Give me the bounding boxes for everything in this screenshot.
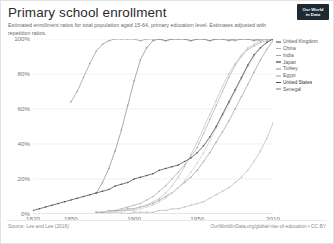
legend-item-united-states[interactable]: United States — [276, 80, 334, 86]
series-point — [121, 39, 123, 40]
series-point — [190, 154, 192, 156]
series-point — [234, 39, 236, 40]
series-point — [127, 208, 128, 210]
legend-item-india[interactable]: India — [276, 53, 334, 59]
series-point — [241, 96, 243, 98]
series-line-senegal[interactable] — [121, 123, 273, 214]
series-point — [241, 54, 243, 56]
series-point — [171, 166, 173, 168]
series-point — [64, 201, 66, 203]
series-point — [203, 152, 205, 154]
legend-label: Senegal — [283, 87, 301, 92]
y-tick-label: 100% — [14, 35, 30, 42]
series-point — [83, 196, 85, 198]
legend-item-united-kingdom[interactable]: United Kingdom — [276, 39, 334, 45]
series-point — [209, 114, 211, 116]
series-point — [51, 205, 53, 207]
series-point — [196, 152, 198, 154]
series-point — [209, 198, 211, 200]
series-point — [196, 170, 198, 172]
series-point — [215, 142, 217, 144]
legend-item-japan[interactable]: Japan — [276, 59, 334, 65]
series-point — [222, 39, 224, 40]
series-point — [102, 212, 104, 214]
series-point — [159, 210, 161, 212]
series-point — [114, 39, 116, 40]
y-tick-label: 20% — [18, 175, 30, 182]
legend-swatch-icon — [276, 68, 281, 70]
series-point — [247, 170, 249, 172]
legend-swatch-icon — [276, 75, 281, 77]
series-point — [76, 198, 78, 200]
series-point — [209, 152, 211, 154]
series-line-united-kingdom[interactable] — [71, 39, 273, 102]
legend-item-china[interactable]: China — [276, 46, 334, 52]
series-point — [165, 192, 167, 194]
series-point — [146, 205, 148, 207]
series-point — [266, 49, 268, 51]
series-point — [146, 206, 148, 208]
series-point — [140, 206, 142, 208]
series-point — [260, 150, 262, 152]
y-tick-label: 40% — [18, 140, 30, 147]
series-point — [159, 191, 161, 193]
legend-label: Turkey — [283, 66, 298, 71]
series-point — [260, 40, 262, 42]
series-point — [76, 91, 78, 93]
attribution-note[interactable]: OurWorldInData.org/global-rise-of-educat… — [210, 224, 326, 229]
series-point — [146, 212, 148, 214]
series-point — [222, 131, 224, 133]
series-point — [203, 133, 205, 135]
series-point — [140, 59, 142, 61]
series-point — [165, 196, 167, 198]
series-point — [102, 44, 104, 46]
series-point — [241, 39, 243, 40]
series-point — [159, 39, 161, 40]
series-point — [108, 210, 110, 212]
series-point — [152, 173, 154, 175]
series-point — [266, 42, 268, 44]
series-line-united-states[interactable] — [33, 39, 273, 211]
series-point — [102, 191, 104, 193]
legend-item-turkey[interactable]: Turkey — [276, 66, 334, 72]
series-point — [114, 185, 116, 187]
series-point — [203, 39, 205, 40]
series-point — [260, 47, 262, 49]
series-point — [140, 177, 142, 179]
series-point — [70, 101, 72, 103]
series-point — [121, 210, 123, 212]
series-point — [184, 206, 186, 208]
series-point — [95, 51, 97, 53]
series-point — [215, 100, 217, 102]
series-point — [234, 182, 236, 184]
series-point — [121, 212, 123, 214]
series-point — [190, 205, 192, 207]
series-point — [260, 59, 262, 61]
footer-divider — [7, 220, 327, 221]
series-point — [222, 86, 224, 88]
series-point — [102, 182, 104, 184]
series-point — [114, 210, 116, 212]
series-point — [253, 39, 255, 40]
series-point — [253, 54, 255, 56]
legend-item-senegal[interactable]: Senegal — [276, 86, 334, 92]
series-point — [253, 161, 255, 163]
legend-label: United States — [283, 80, 312, 85]
series-point — [178, 39, 180, 40]
series-line-japan[interactable] — [96, 39, 273, 193]
series-point — [159, 199, 161, 201]
series-point — [159, 201, 161, 203]
series-point — [70, 199, 72, 201]
line-chart-svg — [33, 39, 273, 214]
series-point — [234, 40, 236, 42]
series-point — [121, 208, 123, 210]
series-point — [190, 157, 192, 159]
chart-legend: United KingdomChinaIndiaJapanTurkeyEgypt… — [276, 39, 334, 93]
series-point — [165, 40, 167, 42]
series-point — [58, 203, 60, 205]
series-point — [133, 39, 135, 40]
owid-logo[interactable]: Our World in Data — [297, 4, 329, 20]
series-point — [203, 145, 205, 147]
series-point — [266, 40, 268, 42]
legend-item-egypt[interactable]: Egypt — [276, 73, 334, 79]
